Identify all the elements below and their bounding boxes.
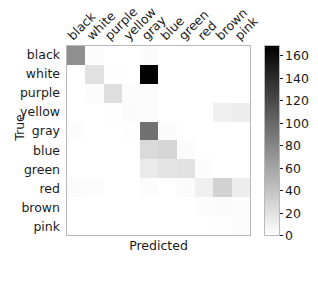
- heatmap-cell: [67, 103, 85, 122]
- heatmap-cell: [104, 216, 122, 235]
- heatmap-cell: [122, 65, 140, 84]
- heatmap-cell: [232, 46, 250, 65]
- heatmap-cell: [67, 178, 85, 197]
- heatmap-cell: [177, 103, 195, 122]
- heatmap-cell: [195, 178, 213, 197]
- heatmap-cell: [67, 122, 85, 141]
- heatmap-cell: [195, 84, 213, 103]
- colorbar-gradient: [265, 46, 279, 235]
- heatmap-cell: [177, 216, 195, 235]
- heatmap-cell: [232, 103, 250, 122]
- heatmap-cell: [158, 65, 176, 84]
- heatmap-cell: [213, 178, 231, 197]
- heatmap-cell: [232, 65, 250, 84]
- colorbar-tick-mark: [280, 168, 283, 169]
- colorbar-tick-labels: 020406080100120140160: [280, 45, 318, 236]
- y-tick-red: red: [40, 179, 61, 198]
- heatmap-cell: [232, 216, 250, 235]
- heatmap-cell: [67, 65, 85, 84]
- colorbar-tick-label: 40: [285, 183, 301, 199]
- heatmap-cell: [158, 46, 176, 65]
- heatmap-cell: [213, 140, 231, 159]
- heatmap-cell: [85, 178, 103, 197]
- heatmap-cell: [85, 122, 103, 141]
- heatmap-cell: [122, 197, 140, 216]
- heatmap-cell: [104, 103, 122, 122]
- y-tick-labels: blackwhitepurpleyellowgraybluegreenredbr…: [0, 45, 64, 236]
- heatmap-cell: [140, 216, 158, 235]
- x-tick-labels: blackwhitepurpleyellowgraybluegreenredbr…: [0, 0, 260, 45]
- heatmap-cell: [140, 197, 158, 216]
- heatmap-cell: [213, 216, 231, 235]
- colorbar-tick-label: 0: [285, 228, 293, 244]
- heatmap-cell: [104, 122, 122, 141]
- heatmap-cell: [140, 122, 158, 141]
- colorbar-tick-mark: [280, 213, 283, 214]
- heatmap-cell: [195, 122, 213, 141]
- heatmap-cell: [104, 46, 122, 65]
- y-tick-green: green: [24, 160, 60, 179]
- heatmap-cell: [177, 65, 195, 84]
- heatmap-cell: [67, 140, 85, 159]
- heatmap-cell: [213, 122, 231, 141]
- heatmap-cell: [213, 65, 231, 84]
- heatmap-axes: [66, 45, 251, 236]
- colorbar-tick-label: 100: [285, 116, 309, 132]
- heatmap-cell: [85, 197, 103, 216]
- colorbar-tick-label: 20: [285, 206, 301, 222]
- confusion-matrix-figure: True blackwhitepurpleyellowgraybluegreen…: [0, 0, 318, 290]
- heatmap-cell: [122, 159, 140, 178]
- y-tick-white: white: [26, 64, 60, 83]
- heatmap-cell: [140, 65, 158, 84]
- colorbar-tick-label: 80: [285, 138, 301, 154]
- y-tick-pink: pink: [33, 217, 60, 236]
- heatmap-cell: [104, 159, 122, 178]
- heatmap-cell: [104, 84, 122, 103]
- x-axis-label: Predicted: [66, 238, 251, 253]
- heatmap-cell: [177, 140, 195, 159]
- heatmap-cell: [158, 159, 176, 178]
- y-tick-blue: blue: [33, 141, 60, 160]
- heatmap-cell: [195, 65, 213, 84]
- heatmap-cell: [232, 122, 250, 141]
- heatmap-cell: [158, 197, 176, 216]
- heatmap-cell: [85, 140, 103, 159]
- heatmap-cell: [232, 197, 250, 216]
- colorbar-tick-mark: [280, 78, 283, 79]
- colorbar-tick-label: 140: [285, 71, 309, 87]
- heatmap-cell: [177, 159, 195, 178]
- heatmap-cell: [140, 103, 158, 122]
- heatmap-cell: [67, 197, 85, 216]
- heatmap-cell: [140, 178, 158, 197]
- heatmap-cell: [177, 46, 195, 65]
- colorbar-tick-mark: [280, 235, 283, 236]
- heatmap-cell: [232, 159, 250, 178]
- heatmap-cell: [158, 178, 176, 197]
- heatmap-cell: [122, 140, 140, 159]
- heatmap-cell: [195, 197, 213, 216]
- heatmap-cell: [195, 159, 213, 178]
- heatmap-cell: [213, 103, 231, 122]
- heatmap-cell: [177, 84, 195, 103]
- heatmap-cell: [232, 140, 250, 159]
- heatmap-cell: [85, 216, 103, 235]
- colorbar: [264, 45, 280, 236]
- heatmap-cell: [140, 46, 158, 65]
- colorbar-tick-label: 120: [285, 93, 309, 109]
- colorbar-tick-mark: [280, 123, 283, 124]
- colorbar-tick-mark: [280, 55, 283, 56]
- heatmap-cell: [85, 46, 103, 65]
- heatmap-cell: [85, 84, 103, 103]
- heatmap-cell: [195, 103, 213, 122]
- heatmap-cell: [85, 65, 103, 84]
- colorbar-tick-label: 160: [285, 48, 309, 64]
- heatmap-cell: [140, 140, 158, 159]
- colorbar-tick-label: 60: [285, 161, 301, 177]
- colorbar-tick-mark: [280, 100, 283, 101]
- heatmap-cell: [158, 103, 176, 122]
- heatmap-cell: [177, 197, 195, 216]
- y-tick-brown: brown: [21, 198, 60, 217]
- y-tick-gray: gray: [32, 121, 60, 140]
- heatmap-cell: [158, 84, 176, 103]
- heatmap-cell: [140, 159, 158, 178]
